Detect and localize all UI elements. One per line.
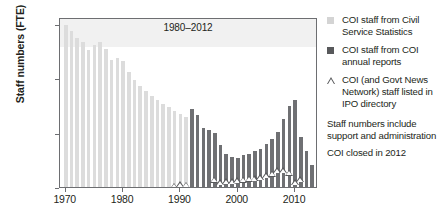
x-tick-mark xyxy=(65,188,66,192)
bar xyxy=(138,86,142,187)
bar xyxy=(259,149,263,187)
bar xyxy=(133,80,137,187)
dark-square-icon xyxy=(327,44,339,54)
bar xyxy=(104,49,108,187)
bar xyxy=(196,115,200,187)
legend-note-coi-closed: COI closed in 2012 xyxy=(327,147,447,159)
legend-item-ipo-directory: COI (and Govt News Network) staff listed… xyxy=(327,74,447,109)
bar xyxy=(190,109,194,187)
bar xyxy=(276,132,280,187)
bar xyxy=(75,38,79,187)
bar xyxy=(173,111,177,187)
bar xyxy=(81,42,85,187)
bar xyxy=(150,96,154,187)
bar xyxy=(87,50,91,187)
bar xyxy=(70,31,74,187)
x-tick-label: 1990 xyxy=(157,194,201,205)
bar xyxy=(305,151,309,187)
x-tick-label: 1980 xyxy=(100,194,144,205)
legend-label: COI staff from COI annual reports xyxy=(342,44,447,67)
legend-note-staff-numbers: Staff numbers include support and admini… xyxy=(327,118,447,141)
bar xyxy=(93,45,97,187)
legend-item-civil-service: COI staff from Civil Service Statistics xyxy=(327,14,447,37)
bar xyxy=(265,144,269,187)
x-tick-mark xyxy=(122,188,123,192)
plot-area: 1980–2012 xyxy=(59,18,317,188)
period-annotation: 1980–2012 xyxy=(60,22,316,33)
y-tick-mark xyxy=(55,188,59,189)
x-tick-mark xyxy=(294,188,295,192)
x-tick-mark xyxy=(237,188,238,192)
bar xyxy=(116,58,120,187)
bar xyxy=(253,151,257,187)
bar xyxy=(247,154,251,187)
x-tick-label: 1970 xyxy=(43,194,87,205)
legend-label: COI (and Govt News Network) staff listed… xyxy=(342,74,447,109)
bar xyxy=(167,107,171,187)
bar xyxy=(127,72,131,187)
open-triangle-icon xyxy=(327,74,339,84)
bar xyxy=(161,104,165,187)
y-axis-title: Staff numbers (FTE) xyxy=(14,0,26,134)
bars-layer xyxy=(60,19,316,187)
bar xyxy=(156,100,160,187)
x-tick-mark xyxy=(179,188,180,192)
bar xyxy=(144,91,148,187)
light-square-icon xyxy=(327,14,339,24)
bar xyxy=(270,139,274,187)
bar xyxy=(110,60,114,187)
y-tick-mark xyxy=(55,25,59,26)
bar xyxy=(179,114,183,187)
x-tick-label: 2000 xyxy=(215,194,259,205)
bar xyxy=(310,165,314,187)
chart-legend: COI staff from Civil Service Statistics … xyxy=(327,14,447,159)
bar xyxy=(282,119,286,187)
legend-item-annual-reports: COI staff from COI annual reports xyxy=(327,44,447,67)
bar xyxy=(293,100,297,187)
bar xyxy=(184,117,188,187)
bar xyxy=(98,42,102,187)
bar xyxy=(121,61,125,187)
bar xyxy=(202,128,206,187)
legend-label: COI staff from Civil Service Statistics xyxy=(342,14,447,37)
y-tick-mark xyxy=(55,79,59,80)
y-tick-mark xyxy=(55,134,59,135)
x-tick-label: 2010 xyxy=(272,194,316,205)
bar xyxy=(64,25,68,187)
chart-figure: Staff numbers (FTE) 1980–2012 0500100015… xyxy=(0,0,447,219)
